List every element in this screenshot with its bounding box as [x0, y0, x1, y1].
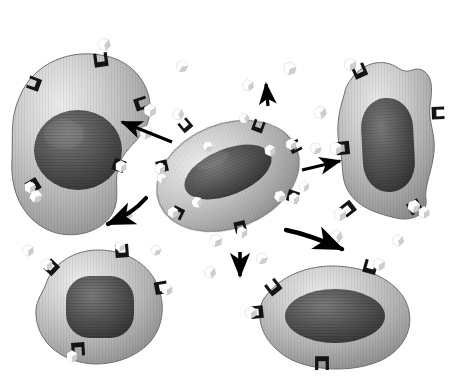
nucleus-highlight: [44, 119, 84, 149]
nucleus-texture: [66, 276, 134, 338]
nucleus-texture: [360, 97, 417, 194]
nucleus-texture: [34, 110, 122, 190]
nucleus-texture: [285, 289, 385, 343]
figure-root: Paracrine cell signalling diagram: [0, 0, 450, 383]
illustration-canvas: [0, 0, 450, 383]
arrow-to-top: [266, 84, 268, 106]
signalling-diagram-svg: [0, 0, 450, 383]
